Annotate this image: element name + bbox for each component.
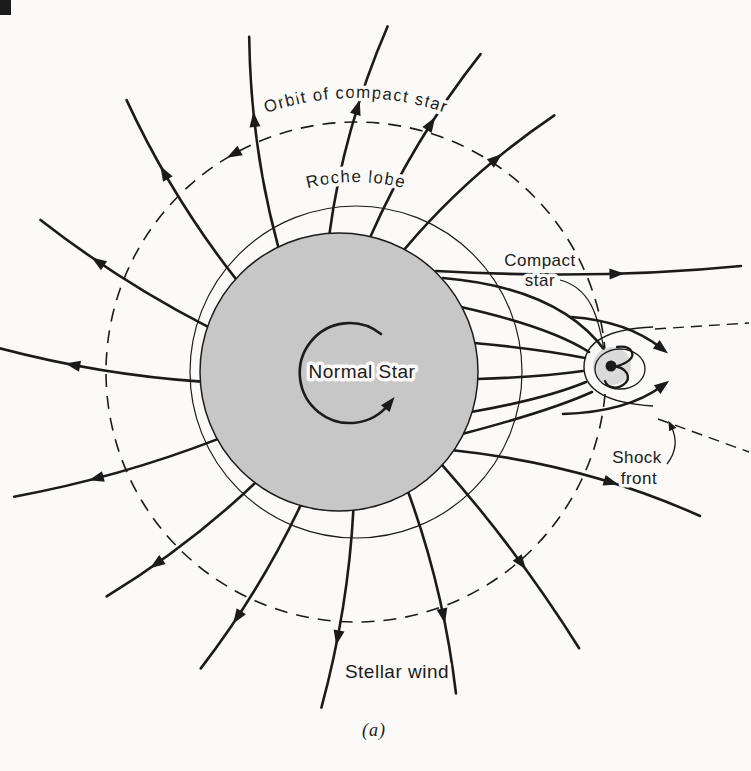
compact-star-label-line1: Compact xyxy=(504,251,576,270)
stellar-wind-streamline xyxy=(436,266,741,275)
flow-arrowhead xyxy=(609,268,624,279)
flow-arrowhead xyxy=(160,166,172,182)
stellar-wind-streamline xyxy=(41,220,209,327)
flow-arrowhead xyxy=(603,475,619,486)
flow-arrowhead xyxy=(250,112,261,128)
stellar-wind-streamline xyxy=(201,505,301,669)
wind-accretion-diagram: Orbit of compact star Roche lobe Normal … xyxy=(0,0,751,771)
flow-arrowhead xyxy=(65,361,81,372)
stellar-wind-streamline xyxy=(474,343,585,358)
flow-arrowhead xyxy=(89,471,105,482)
stellar-wind-streamline xyxy=(471,382,586,412)
flow-arrowhead xyxy=(92,257,108,270)
flow-arrowhead xyxy=(653,340,668,354)
stellar-wind-streamline xyxy=(477,371,583,379)
compact-star-dot xyxy=(606,361,617,372)
flow-arrowhead xyxy=(422,117,435,133)
stellar-wind-streamline xyxy=(461,307,589,352)
roche-lobe-label: Roche lobe xyxy=(304,167,408,192)
flow-arrowhead xyxy=(654,381,669,394)
shock-front-label-line2: front xyxy=(621,469,658,488)
shock-front-leader-arrowhead xyxy=(668,421,676,432)
diagram-strokes xyxy=(0,0,749,708)
stellar-wind-streamline xyxy=(127,100,237,280)
flow-arrowhead xyxy=(350,100,361,116)
stellar-wind-streamline xyxy=(0,348,201,381)
shock-front-leader-arrow xyxy=(667,426,675,464)
stellar-wind-streamline xyxy=(563,386,662,414)
flow-arrowhead xyxy=(150,555,165,568)
orbit-direction-arrowhead xyxy=(227,146,243,158)
shock-front-label-line1: Shock xyxy=(612,448,662,467)
flow-arrowhead xyxy=(334,629,345,645)
compact-star-label-line2: star xyxy=(525,271,555,290)
figure-page: Orbit of compact star Roche lobe Normal … xyxy=(0,0,751,771)
stellar-wind-streamline xyxy=(107,482,256,596)
stellar-wind-streamline xyxy=(329,26,387,234)
scan-artifact xyxy=(0,0,11,15)
shock-front-upper-edge xyxy=(655,323,749,329)
normal-star-label: Normal Star xyxy=(309,361,416,382)
stellar-wind-label: Stellar wind xyxy=(345,661,449,682)
flow-arrowhead xyxy=(233,608,246,624)
stellar-wind-streamline xyxy=(404,115,555,250)
stellar-wind-streamline xyxy=(442,464,580,648)
figure-caption: (a) xyxy=(362,720,386,741)
stellar-wind-streamline xyxy=(249,37,278,248)
stellar-wind-streamline xyxy=(14,439,218,497)
stellar-wind-streamline xyxy=(451,450,700,516)
